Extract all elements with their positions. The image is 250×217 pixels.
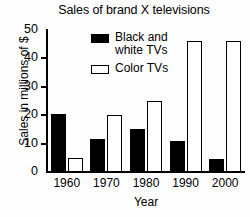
bar: [170, 141, 185, 172]
x-axis-tick-label: 1980: [126, 176, 166, 190]
legend-label-black-and-white-tvs: Black and white TVs: [115, 31, 168, 57]
x-axis-tick-label: 1960: [47, 176, 87, 190]
bar: [90, 139, 105, 172]
bar: [130, 129, 145, 172]
x-axis-tick-label: 1990: [166, 176, 206, 190]
y-axis-tick-label: 20: [0, 107, 38, 122]
bar: [51, 114, 66, 172]
x-axis-label: Year: [47, 195, 245, 209]
y-axis-tick-label: 30: [0, 79, 38, 94]
y-axis-tick-label: 50: [0, 22, 38, 37]
chart-title: Sales of brand X televisions: [0, 3, 250, 17]
bar: [68, 158, 83, 172]
y-axis-tick-label: 10: [0, 136, 38, 151]
bar: [107, 115, 122, 172]
x-axis-tick-label: 2000: [205, 176, 245, 190]
legend-swatch-color-tvs: [91, 65, 109, 74]
legend-label-color-tvs: Color TVs: [115, 62, 168, 75]
y-axis-tick-label: 40: [0, 50, 38, 65]
y-axis-tick-label: 0: [0, 164, 38, 179]
bar: [226, 41, 241, 172]
bar-chart: Sales of brand X televisions Sales in mi…: [0, 0, 250, 217]
legend-swatch-black-and-white-tvs: [91, 34, 109, 43]
bar: [209, 159, 224, 172]
legend: Black and white TVs Color TVs: [91, 31, 168, 80]
bar: [147, 101, 162, 172]
legend-item-black-and-white-tvs: Black and white TVs: [91, 31, 168, 57]
bar: [187, 41, 202, 172]
legend-item-color-tvs: Color TVs: [91, 62, 168, 75]
x-axis-tick-label: 1970: [87, 176, 127, 190]
